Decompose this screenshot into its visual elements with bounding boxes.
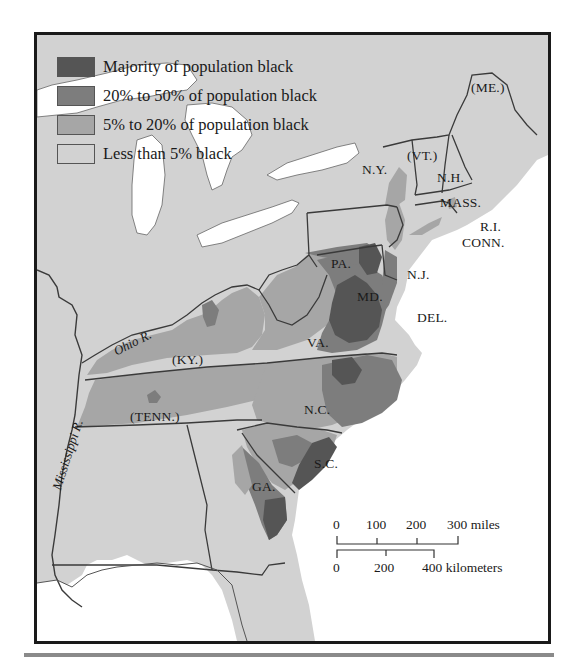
legend-label: Less than 5% black: [103, 144, 232, 164]
legend-item-under-5: Less than 5% black: [57, 139, 317, 168]
state-label-pa: PA.: [331, 256, 351, 272]
state-label-nc: N.C.: [304, 402, 330, 418]
state-label-ga: GA.: [252, 479, 275, 495]
state-label-va: VA.: [307, 335, 329, 351]
state-label-md: MD.: [357, 289, 383, 305]
scale-miles-200: 200: [406, 517, 426, 533]
legend-item-20-50: 20% to 50% of population black: [57, 81, 317, 110]
legend-swatch-majority: [57, 57, 95, 77]
state-label-ri: R.I.: [480, 219, 501, 235]
scale-miles-0: 0: [333, 517, 340, 533]
state-label-ky: (KY.): [172, 352, 203, 368]
state-label-nj: N.J.: [407, 267, 430, 283]
scale-miles-300: 300 miles: [447, 517, 500, 533]
legend-item-5-20: 5% to 20% of population black: [57, 110, 317, 139]
state-label-sc: S.C.: [314, 456, 338, 472]
legend: Majority of population black 20% to 50% …: [57, 52, 317, 168]
legend-item-majority: Majority of population black: [57, 52, 317, 81]
bottom-rule: [24, 653, 554, 657]
scale-km-0: 0: [333, 560, 340, 576]
state-label-del: DEL.: [417, 310, 447, 326]
state-label-ny: N.Y.: [362, 162, 387, 178]
state-label-me: (ME.): [471, 80, 505, 96]
legend-swatch-under-5: [57, 144, 95, 164]
map-frame: Majority of population black 20% to 50% …: [34, 32, 551, 644]
state-label-vt: (VT.): [407, 148, 437, 164]
scale-miles-100: 100: [366, 517, 386, 533]
state-label-conn: CONN.: [462, 235, 505, 251]
state-label-nh: N.H.: [437, 170, 464, 186]
legend-swatch-5-20: [57, 115, 95, 135]
legend-label: 5% to 20% of population black: [103, 115, 309, 135]
state-label-tenn: (TENN.): [130, 409, 180, 425]
legend-label: 20% to 50% of population black: [103, 86, 317, 106]
scale-km-400: 400 kilometers: [422, 560, 503, 576]
scale-bar-lines: [333, 514, 543, 594]
state-label-mass: MASS.: [440, 195, 481, 211]
legend-swatch-20-50: [57, 86, 95, 106]
legend-label: Majority of population black: [103, 57, 293, 77]
scale-km-200: 200: [374, 560, 394, 576]
scale-bar: 0 100 200 300 miles 0 200 400 kilometers: [333, 514, 543, 594]
